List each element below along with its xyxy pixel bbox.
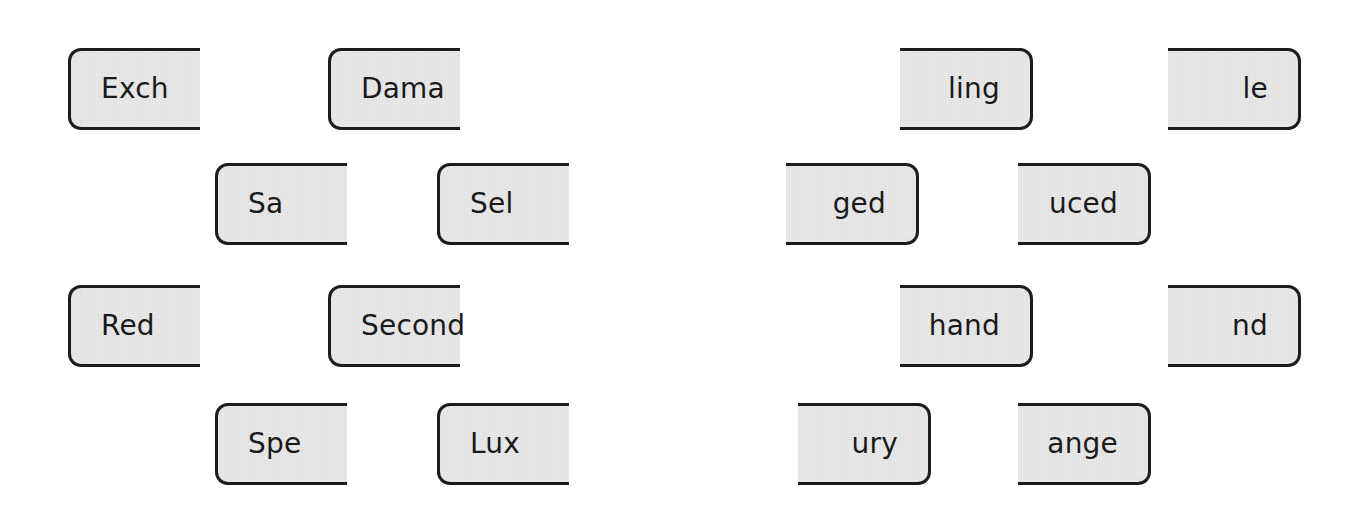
word-tile-ged[interactable]: ged bbox=[786, 163, 919, 245]
word-tile-label: nd bbox=[1232, 312, 1268, 340]
word-tile-label: ling bbox=[948, 75, 1000, 103]
word-tile-lux[interactable]: Lux bbox=[437, 403, 569, 485]
puzzle-board: ExchDamalingleSaSelgeducedRedSecondhandn… bbox=[0, 0, 1355, 512]
word-tile-uced[interactable]: uced bbox=[1018, 163, 1151, 245]
word-tile-label: Spe bbox=[248, 430, 301, 458]
word-tile-label: Lux bbox=[470, 430, 520, 458]
word-tile-label: Red bbox=[101, 312, 155, 340]
word-tile-label: uced bbox=[1049, 190, 1118, 218]
word-tile-ling[interactable]: ling bbox=[900, 48, 1033, 130]
word-tile-label: ury bbox=[852, 430, 898, 458]
word-tile-nd[interactable]: nd bbox=[1168, 285, 1301, 367]
word-tile-red[interactable]: Red bbox=[68, 285, 200, 367]
word-tile-label: Sel bbox=[470, 190, 513, 218]
word-tile-label: Exch bbox=[101, 75, 169, 103]
word-tile-sel[interactable]: Sel bbox=[437, 163, 569, 245]
word-tile-label: Dama bbox=[361, 75, 445, 103]
word-tile-label: ged bbox=[833, 190, 886, 218]
word-tile-spe[interactable]: Spe bbox=[215, 403, 347, 485]
word-tile-le[interactable]: le bbox=[1168, 48, 1301, 130]
word-tile-sa[interactable]: Sa bbox=[215, 163, 347, 245]
word-tile-ange[interactable]: ange bbox=[1018, 403, 1151, 485]
word-tile-label: ange bbox=[1047, 430, 1118, 458]
word-tile-hand[interactable]: hand bbox=[900, 285, 1033, 367]
word-tile-exch[interactable]: Exch bbox=[68, 48, 200, 130]
word-tile-second[interactable]: Second bbox=[328, 285, 460, 367]
word-tile-label: Sa bbox=[248, 190, 283, 218]
word-tile-label: hand bbox=[929, 312, 1000, 340]
word-tile-label: Second bbox=[361, 312, 465, 340]
word-tile-ury[interactable]: ury bbox=[798, 403, 931, 485]
word-tile-dama[interactable]: Dama bbox=[328, 48, 460, 130]
word-tile-label: le bbox=[1243, 75, 1268, 103]
